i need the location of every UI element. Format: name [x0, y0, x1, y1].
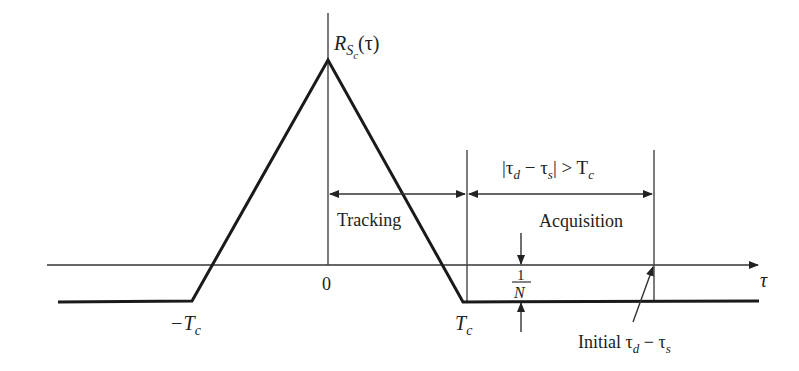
correlation-diagram: RSc(τ) τ 0 −Tc Tc Tracking Acquisition |…	[0, 0, 799, 371]
function-label: RSc(τ)	[333, 32, 379, 61]
floor-numerator: 1	[517, 267, 525, 283]
condition-label: |τd − τs| > Tc	[502, 157, 594, 182]
tau-axis-label: τ	[760, 269, 768, 291]
origin-label: 0	[322, 274, 331, 294]
initial-label: Initial τd − τs	[578, 332, 671, 356]
initial-pointer-arrow	[633, 267, 653, 322]
tc-label: Tc	[455, 312, 473, 338]
tracking-label: Tracking	[337, 210, 401, 230]
floor-denominator: N	[513, 284, 526, 301]
neg-tc-label: −Tc	[170, 312, 202, 338]
acquisition-label: Acquisition	[539, 211, 623, 231]
